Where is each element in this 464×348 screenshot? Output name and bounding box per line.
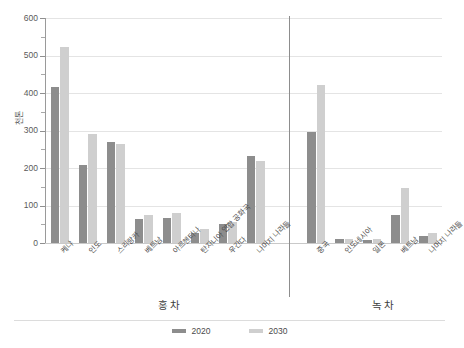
- legend-item[interactable]: 2020: [172, 326, 211, 336]
- legend-label: 2030: [269, 326, 288, 336]
- bar: [200, 229, 208, 243]
- legend-item[interactable]: 2030: [249, 326, 288, 336]
- legend-swatch: [249, 329, 263, 333]
- bar: [88, 134, 96, 243]
- bar: [228, 222, 236, 243]
- legend-swatch: [172, 329, 186, 333]
- chart-legend: 20202030: [0, 326, 459, 336]
- bar: [401, 188, 409, 243]
- y-tick-label: 0: [4, 239, 38, 248]
- bar: [391, 215, 399, 243]
- y-tick-label-wrap: 300: [0, 126, 38, 135]
- bar: [335, 239, 343, 243]
- bar: [428, 233, 436, 244]
- bar: [317, 85, 325, 243]
- bar: [345, 239, 353, 244]
- bar: [107, 142, 115, 243]
- bar: [51, 87, 59, 243]
- bar: [135, 219, 143, 243]
- y-tick-label-wrap: 500: [0, 51, 38, 60]
- bar: [307, 132, 315, 243]
- bar: [191, 233, 199, 244]
- bar: [79, 165, 87, 243]
- y-tick-label-wrap: 400: [0, 89, 38, 98]
- legend-label: 2020: [192, 326, 211, 336]
- bar: [373, 239, 381, 243]
- y-tick-label: 100: [4, 201, 38, 210]
- bars-layer: [46, 18, 442, 243]
- y-tick-label: 600: [4, 14, 38, 23]
- y-tick-label-wrap: 100: [0, 201, 38, 210]
- bar: [219, 224, 227, 243]
- bar: [144, 215, 152, 243]
- x-axis-line: [45, 243, 442, 244]
- y-tick-label: 300: [4, 126, 38, 135]
- bar: [163, 218, 171, 244]
- bar: [60, 47, 68, 243]
- bar: [363, 240, 371, 243]
- bar: [116, 144, 124, 243]
- y-tick-label-wrap: 200: [0, 164, 38, 173]
- bar: [419, 236, 427, 244]
- y-tick-label-wrap: 0: [0, 239, 38, 248]
- y-tick-label: 500: [4, 51, 38, 60]
- y-tick-label: 200: [4, 164, 38, 173]
- y-tick-label: 400: [4, 89, 38, 98]
- bar: [247, 156, 255, 243]
- legend-divider: [14, 320, 445, 321]
- bar: [172, 213, 180, 243]
- bar: [256, 161, 264, 244]
- y-tick-label-wrap: 600: [0, 14, 38, 23]
